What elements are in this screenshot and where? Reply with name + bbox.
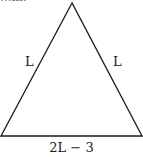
triangle-diagram <box>0 0 143 157</box>
left-side-label: L <box>25 55 34 68</box>
right-side-label: L <box>113 55 122 68</box>
triangle-shape <box>1 3 142 136</box>
base-side-label: 2L − 3 <box>0 141 143 154</box>
